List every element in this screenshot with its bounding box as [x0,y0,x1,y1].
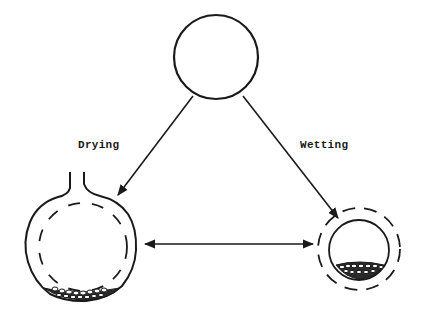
wetted-state-cell [318,208,400,290]
bulb-outline [25,172,136,301]
drying-wetting-diagram [0,0,421,318]
inner-membrane-dashed [39,203,127,291]
wetting-label: Wetting [300,139,348,151]
particles-sediment [44,287,120,300]
initial-state-circle [174,15,258,99]
wetting-arrow [243,96,338,218]
drying-arrow [118,96,193,195]
dried-state-bulb [25,172,136,301]
drying-label: Drying [78,139,119,151]
